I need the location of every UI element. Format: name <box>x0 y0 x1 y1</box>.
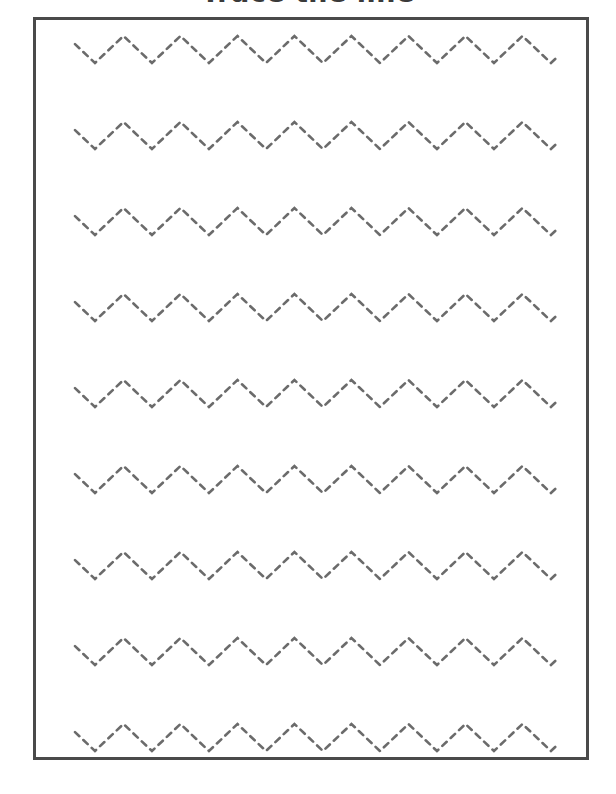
zigzag-row-2[interactable] <box>36 106 592 146</box>
worksheet-page: Trace the line <box>0 0 616 794</box>
zigzag-trace-path <box>75 466 558 493</box>
zigzag-trace-path <box>75 36 558 63</box>
zigzag-trace-path <box>75 208 558 235</box>
page-title: Trace the line <box>0 0 616 6</box>
zigzag-row-4[interactable] <box>36 278 592 318</box>
title-clip-region: Trace the line <box>0 0 616 11</box>
zigzag-row-3[interactable] <box>36 192 592 232</box>
zigzag-row-6[interactable] <box>36 450 592 490</box>
zigzag-row-8[interactable] <box>36 622 592 662</box>
worksheet-frame <box>33 17 589 760</box>
zigzag-trace-path <box>75 122 558 149</box>
zigzag-row-5[interactable] <box>36 364 592 404</box>
zigzag-row-9[interactable] <box>36 708 592 748</box>
zigzag-trace-path <box>75 552 558 579</box>
zigzag-trace-path <box>75 724 558 751</box>
zigzag-trace-path <box>75 294 558 321</box>
trace-rows-container <box>36 20 586 757</box>
zigzag-trace-path <box>75 380 558 407</box>
zigzag-trace-path <box>75 638 558 665</box>
zigzag-row-1[interactable] <box>36 20 592 60</box>
zigzag-row-7[interactable] <box>36 536 592 576</box>
